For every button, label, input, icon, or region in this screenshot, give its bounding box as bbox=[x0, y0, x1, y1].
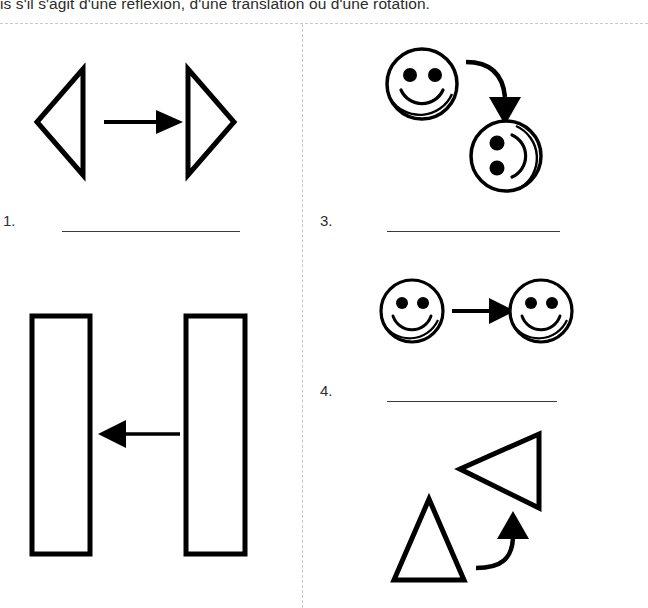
figure-smileys-translation bbox=[376, 275, 576, 347]
vertical-divider bbox=[302, 24, 303, 608]
item-number-3: 3. bbox=[320, 212, 333, 230]
figure-rectangles-translation bbox=[28, 310, 253, 560]
worksheet-page: is s'il s'agit d'une réflexion, d'une tr… bbox=[0, 0, 648, 608]
item-number-1: 1. bbox=[3, 212, 16, 230]
triangle-pointing-up bbox=[394, 499, 464, 580]
curved-arrow-down-icon bbox=[466, 62, 521, 125]
figure-triangles-rotation bbox=[382, 422, 572, 608]
smiley-face-target-icon bbox=[510, 280, 572, 342]
curved-arrow-up-icon bbox=[476, 511, 529, 568]
smiley-face-source-icon bbox=[381, 280, 443, 342]
answer-line-3[interactable] bbox=[387, 231, 560, 232]
straight-arrow-right-icon bbox=[104, 110, 183, 134]
instruction-text: is s'il s'agit d'une réflexion, d'une tr… bbox=[0, 0, 640, 14]
figure-triangles-reflection bbox=[28, 60, 248, 185]
triangle-pointing-left bbox=[460, 434, 539, 508]
triangle-pointing-left bbox=[37, 69, 83, 175]
tall-rectangle-left bbox=[32, 316, 90, 554]
smiley-face-rotated-icon bbox=[471, 121, 541, 191]
smiley-face-upright-icon bbox=[387, 49, 457, 119]
straight-arrow-left-icon bbox=[98, 420, 180, 448]
tall-rectangle-right bbox=[186, 316, 245, 554]
answer-line-4[interactable] bbox=[387, 401, 557, 402]
straight-arrow-right-icon bbox=[452, 298, 515, 324]
figure-smileys-rotation bbox=[380, 42, 565, 197]
item-number-4: 4. bbox=[320, 382, 333, 400]
triangle-pointing-right bbox=[188, 69, 234, 175]
horizontal-divider bbox=[0, 23, 648, 24]
answer-line-1[interactable] bbox=[62, 231, 240, 232]
